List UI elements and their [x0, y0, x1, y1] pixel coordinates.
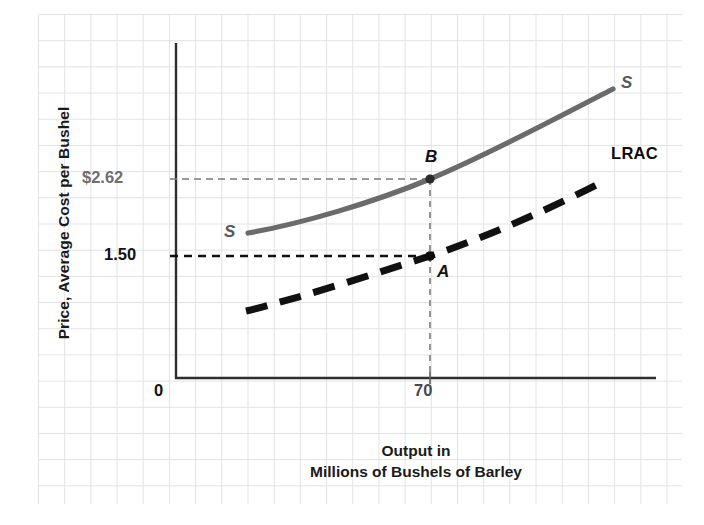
point-b-marker: [425, 174, 434, 183]
y-tick-label-150: 1.50: [104, 245, 136, 264]
x-axis-title-line1: Output in: [176, 440, 656, 461]
supply-curve-label-right: S: [621, 73, 632, 93]
point-a-marker: [425, 251, 435, 261]
supply-curve-label-left: S: [224, 222, 235, 242]
y-axis-title: Price, Average Cost per Bushel: [55, 73, 73, 373]
y-tick-label-262: $2.62: [82, 168, 123, 187]
lrac-curve-label: LRAC: [611, 144, 658, 163]
point-b-label: B: [425, 147, 437, 167]
origin-label: 0: [154, 381, 163, 400]
x-axis-title: Output in Millions of Bushels of Barley: [176, 440, 656, 482]
lrac-curve: [246, 181, 604, 311]
point-a-label: A: [437, 262, 449, 282]
x-axis-title-line2: Millions of Bushels of Barley: [176, 461, 656, 482]
x-tick-label-70: 70: [414, 381, 432, 400]
chart-figure: Price, Average Cost per Bushel Output in…: [0, 0, 704, 525]
